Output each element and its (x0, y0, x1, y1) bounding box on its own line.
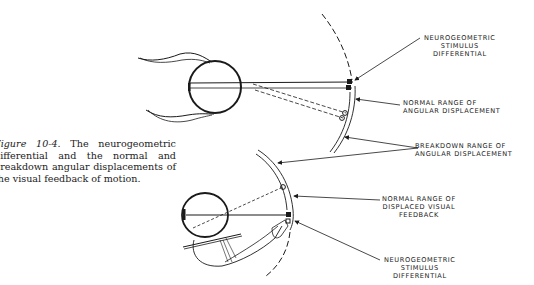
lower-arc-dashed (266, 232, 290, 276)
arm-inner (225, 226, 278, 262)
stimulus-marker-1 (347, 79, 352, 84)
upper-range-band-inner (330, 92, 350, 152)
visual-line-1 (190, 82, 353, 83)
arm-outline (193, 226, 282, 266)
lower-lens (183, 209, 186, 220)
leader-bottom-stimulus (295, 221, 380, 260)
upper-eyeball (189, 61, 241, 113)
leader-top-stimulus (355, 38, 420, 80)
label-top-stimulus: NEUROGEOMETRIC STIMULUS DIFFERENTIAL (424, 34, 496, 58)
leader-normal-angular (356, 99, 400, 105)
label-breakdown-angular: BREAKDOWN RANGE OF ANGULAR DISPLACEMENT (415, 142, 512, 158)
upper-range-band-outer (334, 86, 355, 153)
label-normal-angular: NORMAL RANGE OF ANGULAR DISPLACEMENT (403, 99, 500, 115)
upper-lens (188, 83, 191, 91)
upper-arc-dashed (322, 14, 352, 80)
lower-stimulus-marker (286, 212, 291, 217)
leader-breakdown-1 (345, 137, 418, 148)
lower-eye-figure (182, 150, 293, 276)
upper-eye-figure (138, 14, 355, 153)
sleeve (220, 238, 236, 262)
label-bottom-stimulus: NEUROGEOMETRIC STIMULUS DIFFERENTIAL (384, 256, 456, 280)
leader-breakdown-2 (278, 148, 418, 163)
leader-normal-displaced (294, 196, 380, 200)
label-normal-displaced: NORMAL RANGE OF DISPLACED VISUAL FEEDBAC… (382, 195, 456, 219)
dashed-line-2 (255, 90, 343, 118)
stimulus-marker-2 (346, 85, 351, 90)
